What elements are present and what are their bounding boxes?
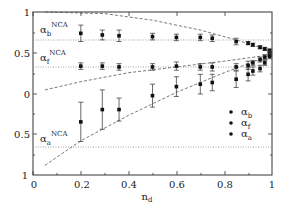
y-tick-label: 1 [24,7,30,18]
data-point [150,33,155,40]
data-point [174,77,179,97]
data-point [262,60,267,65]
ref-label-f: αfNCA [40,49,67,66]
x-tick-label: 0 [31,179,37,190]
x-axis [33,12,249,175]
x-tick-labels: 0 0.2 0.4 0.6 0.8 1 [31,179,275,190]
data-point [258,65,263,72]
x-tick-label: 0.2 [74,179,90,190]
y-tick-label: 0.5 [14,129,30,140]
data-point [250,60,255,65]
data-point [262,47,267,51]
legend: αb αf αa [229,106,253,142]
ref-label-a: αaNCA [40,130,68,147]
y-tick-label: 1 [22,170,28,181]
data-point [210,63,215,71]
data-point [117,98,122,121]
data-point [150,84,155,107]
data-point [262,55,267,60]
data-point [100,30,105,40]
data-point [250,43,255,47]
legend-marker-b [229,110,233,114]
data-point [250,67,255,75]
data-point [246,41,251,45]
chart-container: 0 0.2 0.4 0.6 0.8 1 nd 1 0.5 0 0.5 1 αbN… [0,0,288,206]
y-tick-label: 0.5 [14,48,30,59]
data-point [78,63,83,70]
data-point [174,62,179,70]
x-tick-label: 0.4 [121,179,137,190]
data-point [234,64,239,71]
legend-marker-f [229,121,233,125]
data-point [258,57,263,62]
data-point [100,63,105,70]
y-tick-label: 0 [24,89,30,100]
data-point [117,64,122,71]
legend-marker-a [229,132,233,136]
x-axis-label: nd [142,191,153,204]
x-tick-label: 1 [269,179,275,190]
y-tick-labels: 1 0.5 0 0.5 1 [14,7,30,181]
x-tick-label: 0.6 [169,179,185,190]
data-point [258,45,263,49]
x-tick-label: 0.8 [217,179,233,190]
chart-svg: 0 0.2 0.4 0.6 0.8 1 nd 1 0.5 0 0.5 1 αbN… [0,0,288,206]
data-point [210,35,215,42]
ref-label-b: αbNCA [40,21,69,38]
data-point [198,74,203,94]
data-point [100,90,105,129]
data-point [267,54,272,59]
data-point [234,71,239,87]
dashed-curve [45,55,272,90]
data-point [78,25,83,41]
data-point [78,102,83,141]
